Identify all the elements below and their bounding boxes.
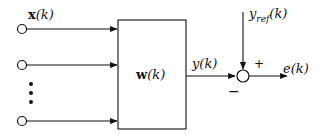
error-label: e(k) [283, 61, 309, 76]
input-label: x(k) [28, 7, 54, 22]
minus-sign: − [228, 83, 240, 99]
plus-sign: + [254, 57, 264, 71]
input-line-1 [18, 25, 118, 34]
summing-junction-icon [237, 70, 249, 82]
reference-label: yref(k) [249, 6, 287, 24]
ellipsis-dots-icon [29, 82, 33, 104]
filter-label: w(k) [136, 67, 165, 82]
input-line-2 [18, 61, 118, 70]
input-line-n [18, 117, 118, 126]
input-node-icon [18, 117, 27, 126]
input-node-icon [18, 61, 27, 70]
output-label: y(k) [192, 56, 217, 71]
input-node-icon [18, 25, 27, 34]
